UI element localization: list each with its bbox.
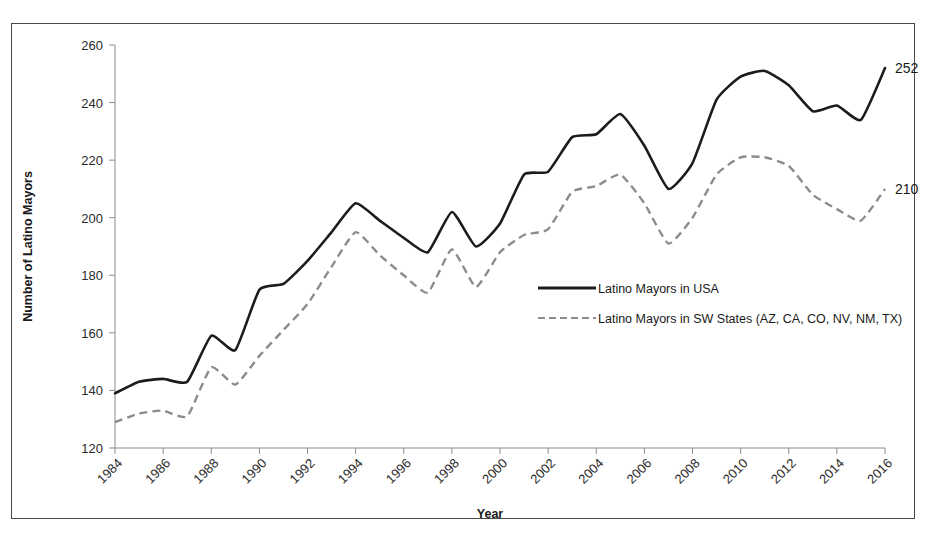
x-tick-label: 1988 (190, 456, 221, 487)
y-tick-label: 240 (81, 96, 103, 111)
x-tick-label: 2000 (479, 456, 510, 487)
y-tick-label: 140 (81, 383, 103, 398)
y-tick-label: 120 (81, 441, 103, 456)
x-tick-label: 2014 (816, 456, 847, 487)
x-tick-label: 1992 (287, 456, 318, 487)
y-tick-label: 160 (81, 326, 103, 341)
x-tick-label: 2002 (527, 456, 558, 487)
legend-label-sw: Latino Mayors in SW States (AZ, CA, CO, … (598, 312, 902, 326)
x-tick-label: 1996 (383, 456, 414, 487)
y-axis-title: Number of Latino Mayors (21, 171, 35, 322)
y-tick-label: 220 (81, 153, 103, 168)
x-tick-label: 2004 (575, 456, 606, 487)
x-tick-label: 2008 (672, 456, 703, 487)
legend-label-usa: Latino Mayors in USA (598, 282, 720, 296)
line-chart-plot: 1201401601802002202402601984198619881990… (0, 0, 940, 552)
end-value-label-usa: 252 (895, 60, 919, 76)
y-tick-label: 180 (81, 268, 103, 283)
x-tick-label: 2010 (720, 456, 751, 487)
series-line-usa (115, 68, 885, 393)
x-tick-label: 1998 (431, 456, 462, 487)
x-axis-title: Year (477, 507, 504, 521)
x-tick-label: 2012 (768, 456, 799, 487)
x-tick-label: 1994 (335, 456, 366, 487)
end-value-label-sw: 210 (895, 181, 919, 197)
x-tick-label: 1986 (142, 456, 173, 487)
series-line-sw (115, 156, 885, 422)
x-tick-label: 1990 (238, 456, 269, 487)
chart-figure: 1201401601802002202402601984198619881990… (0, 0, 940, 552)
y-tick-label: 200 (81, 211, 103, 226)
x-tick-label: 1984 (94, 456, 125, 487)
x-tick-label: 2016 (864, 456, 895, 487)
y-tick-label: 260 (81, 38, 103, 53)
x-tick-label: 2006 (623, 456, 654, 487)
